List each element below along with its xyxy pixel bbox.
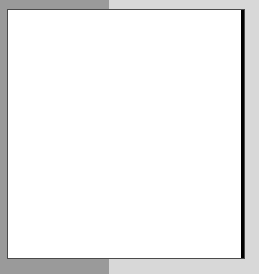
cellular-automaton-canvas <box>8 10 244 258</box>
screenshot-root <box>0 0 259 274</box>
cellular-automaton-plot-frame <box>7 9 245 259</box>
